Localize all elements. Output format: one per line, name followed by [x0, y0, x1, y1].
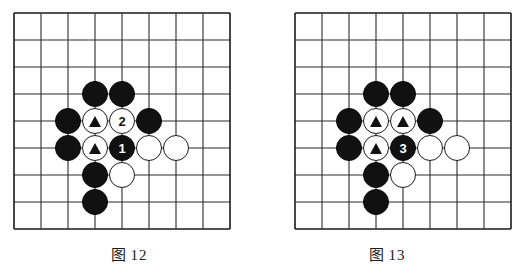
- triangle-icon: [370, 143, 382, 154]
- move-number: 2: [118, 114, 125, 127]
- white-stone: [136, 135, 162, 161]
- white-stone: [109, 162, 135, 188]
- black-stone: [336, 135, 362, 161]
- figure-caption-13: 图13: [258, 243, 516, 264]
- black-stone: [82, 162, 108, 188]
- move-number: 1: [118, 141, 125, 154]
- white-stone: [444, 135, 470, 161]
- white-stone: [417, 135, 443, 161]
- white-stone-triangle-marked: [363, 135, 389, 161]
- black-stone: [363, 81, 389, 107]
- black-stone: [363, 162, 389, 188]
- triangle-icon: [397, 116, 409, 127]
- caption-number: 12: [131, 247, 148, 263]
- triangle-icon: [89, 116, 101, 127]
- white-stone: [163, 135, 189, 161]
- triangle-icon: [370, 116, 382, 127]
- go-board-13[interactable]: 3: [295, 13, 511, 229]
- black-stone: [82, 81, 108, 107]
- black-stone: [390, 81, 416, 107]
- black-stone: [363, 189, 389, 215]
- go-board-12[interactable]: 21: [14, 13, 230, 229]
- figure-caption-12: 图12: [0, 243, 258, 264]
- black-stone-move-3: 3: [390, 135, 416, 161]
- white-stone-triangle-marked: [363, 108, 389, 134]
- black-stone: [82, 189, 108, 215]
- black-stone: [336, 108, 362, 134]
- go-diagram-page: 21 图12 3 图13: [0, 0, 516, 277]
- black-stone: [109, 81, 135, 107]
- white-stone-triangle-marked: [82, 135, 108, 161]
- move-number: 3: [399, 141, 406, 154]
- caption-label: 图: [111, 247, 127, 263]
- caption-label: 图: [369, 247, 385, 263]
- black-stone: [136, 108, 162, 134]
- white-stone-triangle-marked: [82, 108, 108, 134]
- black-stone: [55, 108, 81, 134]
- black-stone: [55, 135, 81, 161]
- white-stone: [390, 162, 416, 188]
- white-stone-move-2: 2: [109, 108, 135, 134]
- white-stone-triangle-marked: [390, 108, 416, 134]
- caption-number: 13: [389, 247, 406, 263]
- black-stone: [417, 108, 443, 134]
- black-stone-move-1: 1: [109, 135, 135, 161]
- triangle-icon: [89, 143, 101, 154]
